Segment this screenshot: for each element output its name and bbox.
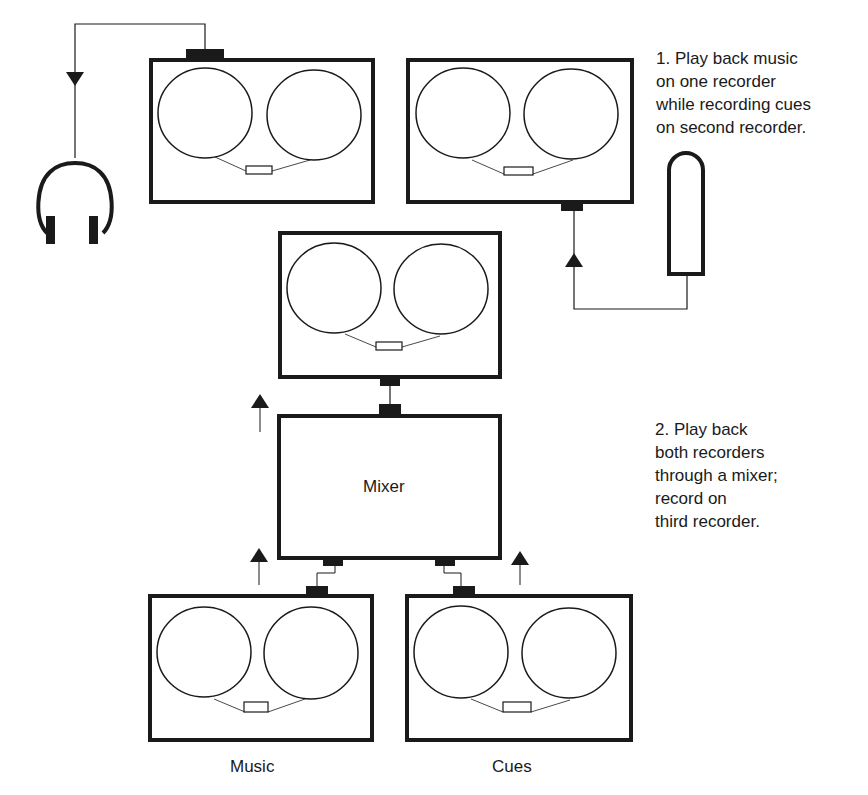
tape-head [246,166,272,174]
caption-line: on second recorder. [656,116,811,139]
recorder-cues [407,586,631,740]
caption-line: third recorder. [655,510,778,533]
arrow-up-icon [565,253,583,267]
step-2-caption: 2. Play back both recorders through a mi… [655,418,778,533]
microphone-icon [669,153,703,274]
caption-line: while recording cues [656,93,811,116]
recorder-music [150,586,372,740]
arrow-down-icon [66,72,84,86]
input-jack [561,202,583,211]
caption-line: on one recorder [656,70,811,93]
recorder-playback-top-left [151,49,373,202]
arrow-up-icon [250,548,268,585]
step-1-caption: 1. Play back music on one recorder while… [656,47,811,139]
caption-line: both recorders [655,441,778,464]
cues-label: Cues [492,756,532,777]
mixer-label: Mixer [363,476,405,497]
recorder-master [280,233,500,386]
arrow-up-icon [511,551,529,585]
caption-line: 2. Play back [655,418,778,441]
headphones-icon [38,163,111,244]
arrow-up-icon [251,394,269,432]
caption-line: record on [655,487,778,510]
caption-line: through a mixer; [655,464,778,487]
music-label: Music [230,756,274,777]
caption-line: 1. Play back music [656,47,811,70]
recorder-record-top-right [408,60,632,211]
